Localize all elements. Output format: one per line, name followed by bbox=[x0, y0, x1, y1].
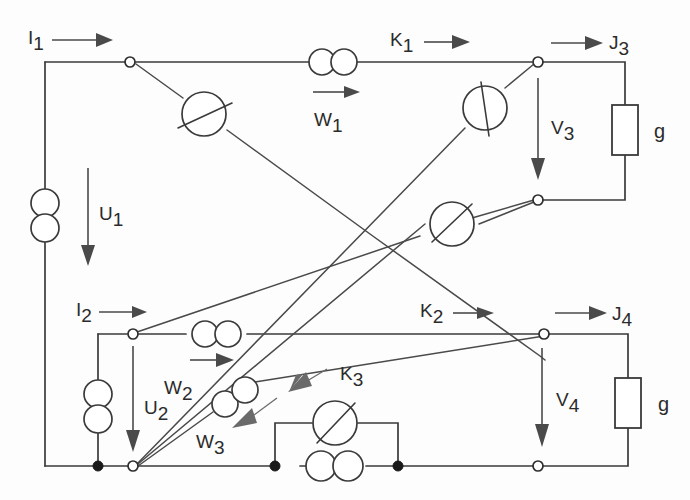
node-d[interactable] bbox=[533, 195, 543, 205]
w1-head bbox=[344, 86, 360, 98]
j3-head bbox=[585, 36, 603, 50]
w4-circle-right bbox=[333, 451, 363, 481]
w2-circle-right bbox=[215, 321, 241, 347]
wire-diagonal-f-to-b-2 bbox=[505, 64, 534, 88]
label-j4: J4 bbox=[612, 303, 633, 330]
u1-circle-top bbox=[31, 189, 59, 217]
w2-head bbox=[216, 353, 234, 367]
arrow-u1 bbox=[81, 168, 95, 266]
arrow-j4 bbox=[555, 306, 607, 320]
label-i1: I1 bbox=[28, 27, 44, 54]
g-top-body bbox=[612, 105, 638, 155]
coupler-w4[interactable] bbox=[306, 451, 363, 481]
w3-circle-upper bbox=[232, 377, 258, 403]
label-v4: V4 bbox=[556, 389, 580, 416]
wire-port4-top bbox=[544, 334, 628, 378]
node-a[interactable] bbox=[125, 57, 135, 67]
wire-port3-top bbox=[538, 62, 625, 105]
label-k1: K1 bbox=[390, 29, 413, 56]
coupler-w1[interactable] bbox=[309, 49, 357, 75]
wire-branch-left-riser bbox=[275, 423, 312, 466]
node-e[interactable] bbox=[539, 329, 549, 339]
g-bottom-body bbox=[615, 378, 641, 428]
main-wiring bbox=[45, 62, 538, 466]
label-g-top: g bbox=[654, 120, 665, 142]
v4-head bbox=[535, 424, 549, 447]
schematic-canvas: I1 I2 U1 U2 W1 W2 W3 K1 K2 K3 J3 J4 V3 bbox=[0, 0, 690, 500]
source-u2[interactable] bbox=[84, 380, 112, 433]
u2-circle-top bbox=[84, 380, 112, 408]
arrow-v3 bbox=[531, 78, 545, 180]
arrow-u2 bbox=[126, 346, 140, 452]
meter-m4[interactable] bbox=[313, 401, 357, 445]
node-b[interactable] bbox=[533, 57, 543, 67]
label-u1: U1 bbox=[99, 203, 123, 230]
i2-head bbox=[132, 306, 147, 318]
node-junction-branch-right bbox=[393, 461, 403, 471]
label-w2: W2 bbox=[164, 377, 193, 404]
label-v3: V3 bbox=[551, 117, 574, 144]
arrow-v4 bbox=[535, 348, 549, 447]
arrow-k3 bbox=[288, 369, 327, 392]
arrow-j3 bbox=[551, 36, 603, 50]
coupler-w2[interactable] bbox=[192, 321, 241, 347]
m1-body bbox=[182, 92, 226, 136]
node-junction-left-bottom bbox=[93, 461, 103, 471]
w2-circle-left bbox=[192, 321, 218, 347]
wire-diagonal-f-to-b-1 bbox=[137, 128, 465, 464]
arrow-k1 bbox=[424, 35, 470, 49]
w1-circle-right bbox=[331, 49, 357, 75]
i1-head bbox=[96, 33, 113, 47]
wire-port3-bottom bbox=[538, 155, 625, 200]
node-f[interactable] bbox=[128, 461, 138, 471]
wire-diagonal-f-to-d-1 bbox=[138, 224, 425, 464]
label-g-bottom: g bbox=[658, 393, 669, 415]
u2-head bbox=[126, 430, 140, 452]
meter-m1[interactable] bbox=[178, 92, 232, 136]
arrow-w1 bbox=[313, 86, 360, 98]
v3-head bbox=[531, 158, 545, 180]
label-i2: I2 bbox=[76, 299, 92, 326]
label-u2: U2 bbox=[144, 397, 168, 424]
wire-branch-right-riser bbox=[358, 423, 398, 466]
arrow-i1 bbox=[52, 33, 113, 47]
node-junction-branch-left bbox=[270, 461, 280, 471]
label-w1: W1 bbox=[314, 109, 343, 136]
source-u1[interactable] bbox=[31, 189, 59, 242]
wire-diagonal-c-to-upperright bbox=[137, 236, 420, 332]
wire-diagonal-c-to-upperright-2 bbox=[472, 200, 534, 218]
w4-circle-left bbox=[306, 451, 336, 481]
arrow-i2 bbox=[99, 306, 147, 318]
node-c[interactable] bbox=[128, 329, 138, 339]
arrow-w2 bbox=[190, 353, 234, 367]
u1-circle-bottom bbox=[31, 214, 59, 242]
wire-diagonal-a-to-bottomleft-1 bbox=[136, 64, 183, 98]
resistor-g-bottom[interactable] bbox=[615, 378, 641, 428]
circuit-diagram: I1 I2 U1 U2 W1 W2 W3 K1 K2 K3 J3 J4 V3 bbox=[0, 0, 690, 500]
u1-head bbox=[81, 245, 95, 266]
wire-diagonal-a-to-bottomleft-2 bbox=[227, 130, 545, 360]
wire-port4-bottom bbox=[538, 428, 628, 466]
meter-m3[interactable] bbox=[430, 202, 474, 246]
node-g[interactable] bbox=[533, 461, 543, 471]
label-w3: W3 bbox=[196, 431, 225, 458]
k1-head bbox=[452, 35, 470, 49]
label-k2: K2 bbox=[420, 300, 443, 327]
label-k3: K3 bbox=[340, 363, 363, 390]
resistor-g-top[interactable] bbox=[612, 105, 638, 155]
j4-head bbox=[589, 306, 607, 320]
u2-circle-bottom bbox=[84, 405, 112, 433]
meter-m2[interactable] bbox=[463, 82, 507, 136]
label-j3: J3 bbox=[609, 32, 629, 59]
